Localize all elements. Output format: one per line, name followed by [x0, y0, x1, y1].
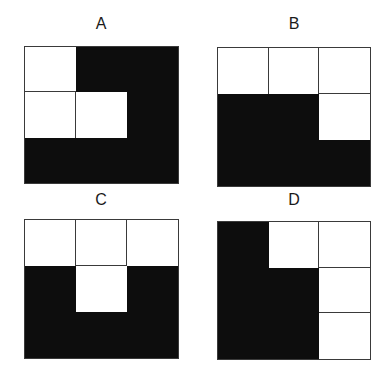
grid-cell-b-r1c0-black: [218, 94, 269, 140]
grid-cell-d-r2c1-black: [269, 313, 320, 359]
grid-cell-a-r0c0-white: [25, 47, 76, 92]
grid-c: [24, 219, 179, 359]
grid-cell-c-r0c0-white: [25, 220, 76, 266]
grid-cell-d-r2c0-black: [218, 313, 269, 359]
grid-cell-a-r1c1-white: [76, 92, 127, 137]
grid-cell-b-r0c0-white: [218, 48, 269, 94]
grid-cell-d-r1c2-white: [319, 268, 370, 314]
grid-cell-a-r0c2-black: [127, 47, 178, 92]
grid-cell-b-r2c0-black: [218, 140, 269, 186]
grid-cell-b-r2c1-black: [269, 140, 320, 186]
grid-cell-d-r0c2-white: [319, 222, 370, 268]
grid-cell-c-r2c0-black: [25, 312, 76, 358]
grid-cell-d-r1c1-black: [269, 268, 320, 314]
grid-cell-a-r0c1-black: [76, 47, 127, 92]
grid-cell-a-r1c0-white: [25, 92, 76, 137]
grid-cell-c-r0c2-white: [127, 220, 178, 266]
grid-cell-c-r1c1-white: [76, 266, 127, 312]
grid-d: [217, 221, 371, 360]
grid-cell-a-r2c2-black: [127, 138, 178, 183]
grid-b: [217, 47, 371, 187]
panel-label-c: C: [86, 192, 116, 208]
grid-cell-c-r2c2-black: [127, 312, 178, 358]
grid-cell-c-r2c1-black: [76, 312, 127, 358]
grid-cell-a-r2c0-black: [25, 138, 76, 183]
grid-cell-d-r1c0-black: [218, 268, 269, 314]
grid-cell-a-r2c1-black: [76, 138, 127, 183]
grid-cell-a-r1c2-black: [127, 92, 178, 137]
grid-cell-c-r1c2-black: [127, 266, 178, 312]
grid-cell-b-r0c1-white: [269, 48, 320, 94]
grid-cell-d-r0c1-white: [269, 222, 320, 268]
grid-cell-b-r0c2-white: [319, 48, 370, 94]
grid-cell-b-r1c2-white: [319, 94, 370, 140]
grid-cell-c-r0c1-white: [76, 220, 127, 266]
grid-cell-d-r0c0-black: [218, 222, 269, 268]
grid-cell-b-r1c1-black: [269, 94, 320, 140]
panel-label-b: B: [279, 16, 309, 32]
panel-label-a: A: [86, 16, 116, 32]
grid-cell-c-r1c0-black: [25, 266, 76, 312]
panel-label-d: D: [279, 192, 309, 208]
grid-cell-d-r2c2-white: [319, 313, 370, 359]
grid-a: [24, 46, 179, 184]
grid-cell-b-r2c2-black: [319, 140, 370, 186]
